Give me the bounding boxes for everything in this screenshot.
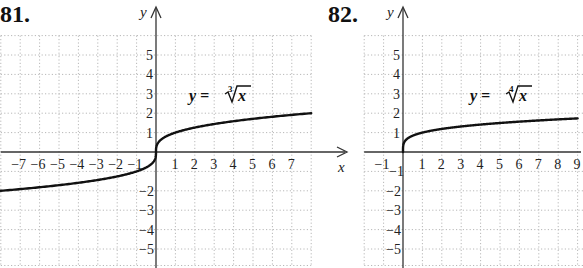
x-tick-label: −6 xyxy=(31,157,46,172)
y-tick-label: 5 xyxy=(146,48,153,63)
y-tick-label: −3 xyxy=(386,203,401,218)
x-axis-label: x xyxy=(337,159,345,175)
x-tick-label: −3 xyxy=(89,157,104,172)
y-tick-label: −3 xyxy=(139,203,154,218)
x-tick-label: 8 xyxy=(554,157,561,172)
y-tick-label: 4 xyxy=(393,67,400,82)
x-tick-label: 6 xyxy=(268,157,275,172)
problem-number: 82. xyxy=(328,1,358,27)
y-tick-label: 2 xyxy=(393,106,400,121)
function-curve xyxy=(403,118,578,152)
equation-label: y = 3x xyxy=(187,84,251,105)
x-tick-label: 3 xyxy=(457,157,464,172)
radicand: x xyxy=(518,87,527,104)
y-tick-label: 3 xyxy=(146,87,153,102)
y-axis-label: y xyxy=(385,4,394,20)
equation-lhs: y = xyxy=(187,87,209,105)
radicand: x xyxy=(237,87,246,104)
x-tick-label: 4 xyxy=(477,157,484,172)
y-tick-label: −1 xyxy=(389,164,404,179)
y-tick-label: 3 xyxy=(393,87,400,102)
x-tick-label: 6 xyxy=(515,157,522,172)
x-tick-label: 7 xyxy=(288,157,295,172)
x-tick-label: 7 xyxy=(535,157,542,172)
x-tick-label: −7 xyxy=(11,157,26,172)
y-tick-label: 4 xyxy=(146,67,153,82)
x-tick-label: 5 xyxy=(249,157,256,172)
y-tick-label: −4 xyxy=(139,223,154,238)
y-tick-label: 1 xyxy=(393,126,400,141)
x-tick-label: −5 xyxy=(50,157,65,172)
x-tick-label: 3 xyxy=(210,157,217,172)
x-tick-label: 1 xyxy=(171,157,178,172)
y-tick-label: 5 xyxy=(393,48,400,63)
chart-82: y−112345678954321−1−2−3−4−5y = 4x82. xyxy=(328,1,583,268)
radical-index: 3 xyxy=(228,84,233,94)
y-tick-label: −2 xyxy=(139,184,154,199)
y-axis-label: y xyxy=(138,4,147,20)
x-tick-label: −1 xyxy=(375,157,390,172)
problem-number: 81. xyxy=(0,1,30,27)
y-tick-label: −5 xyxy=(386,242,401,257)
y-tick-label: −5 xyxy=(139,242,154,257)
y-tick-label: 2 xyxy=(146,106,153,121)
y-tick-label: −4 xyxy=(386,223,401,238)
x-tick-label: 1 xyxy=(418,157,425,172)
y-tick-label: 1 xyxy=(146,126,153,141)
x-tick-label: 5 xyxy=(496,157,503,172)
x-tick-label: 4 xyxy=(230,157,237,172)
x-tick-label: 9 xyxy=(574,157,581,172)
figure-canvas: yx−7−6−5−4−3−2−1123456754321−2−3−4−5y = … xyxy=(0,0,583,268)
x-tick-label: 2 xyxy=(438,157,445,172)
x-tick-label: −4 xyxy=(69,157,84,172)
chart-81: yx−7−6−5−4−3−2−1123456754321−2−3−4−5y = … xyxy=(0,1,347,268)
x-tick-label: −2 xyxy=(108,157,123,172)
x-tick-label: 2 xyxy=(191,157,198,172)
radical-index: 4 xyxy=(509,84,514,94)
equation-lhs: y = xyxy=(468,87,490,105)
y-tick-label: −2 xyxy=(386,184,401,199)
